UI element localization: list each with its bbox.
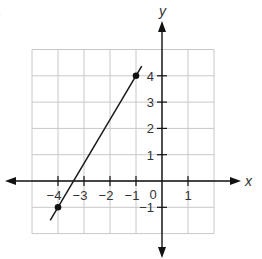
y-axis-label: y [158, 3, 167, 19]
y-axis-up-arrow-icon [158, 21, 166, 32]
x-axis-right-arrow-icon [230, 177, 241, 185]
y-tick-label: 1 [147, 148, 154, 163]
coordinate-plane: x y −4−3−2−114321−10 [0, 0, 262, 259]
x-tick-label: 1 [184, 188, 191, 203]
x-tick-label: −1 [125, 188, 140, 203]
y-tick-label: 3 [147, 95, 154, 110]
ticks: −4−3−2−114321−10 [47, 69, 192, 216]
x-tick-label: −2 [99, 188, 114, 203]
x-axis-left-arrow-icon [5, 177, 16, 185]
x-axis-label: x [244, 173, 253, 189]
axes: x y [5, 3, 253, 258]
y-tick-label: 4 [147, 69, 154, 84]
y-tick-label: 2 [147, 121, 154, 136]
x-tick-label: −3 [73, 188, 88, 203]
y-axis-down-arrow-icon [158, 247, 166, 258]
data-point [55, 204, 62, 211]
origin-label: 0 [149, 187, 156, 202]
data-point [133, 73, 140, 80]
x-tick-label: −4 [47, 188, 62, 203]
y-tick-label: −1 [139, 200, 154, 215]
